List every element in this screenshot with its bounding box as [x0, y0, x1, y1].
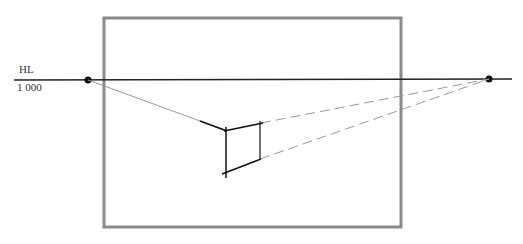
- horizon-label: HL: [19, 63, 34, 75]
- horizon-value: 1 000: [17, 81, 42, 93]
- construction-line-right-top: [261, 79, 489, 123]
- picture-frame: [104, 18, 401, 227]
- construction-line-right-bottom: [260, 79, 489, 159]
- box-bottom-edge: [222, 159, 261, 174]
- perspective-diagram: [0, 0, 523, 244]
- box-top-left-edge: [200, 121, 227, 131]
- box-top-edge: [224, 123, 263, 131]
